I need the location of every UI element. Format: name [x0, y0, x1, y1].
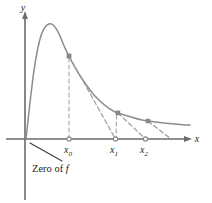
tangent-lines-group — [69, 56, 169, 139]
newton-method-figure: y x x0 x1 x2 Zero of f — [0, 0, 212, 203]
axis-marker-x0 — [67, 137, 71, 141]
tangent-line-x0 — [69, 56, 116, 139]
point-label-x1: x1 — [109, 144, 118, 158]
zero-of-f-leader-line — [30, 143, 62, 161]
point-label-x2-sub: 2 — [144, 150, 148, 158]
figure-canvas: y x x0 x1 x2 Zero of f — [0, 0, 212, 203]
curve-point-marker-x1 — [116, 111, 121, 116]
axis-marker-x2 — [143, 137, 147, 141]
annotation-leader-group — [30, 143, 62, 161]
curve-point-markers-group — [67, 54, 151, 124]
point-label-x1-sub: 1 — [114, 150, 118, 158]
point-label-x0: x0 — [63, 144, 72, 158]
zero-of-f-function-symbol: f — [66, 163, 71, 174]
point-label-x2: x2 — [139, 144, 148, 158]
x-axis-arrowhead — [184, 136, 192, 142]
curve-point-marker-x2 — [146, 119, 150, 123]
x-axis-label: x — [194, 133, 200, 144]
dashed-vertical-x1 — [116, 115, 117, 138]
function-curve-group — [26, 24, 190, 139]
curve-point-marker-x0 — [67, 54, 72, 59]
function-curve — [26, 24, 190, 139]
axis-marker-x1 — [113, 137, 117, 141]
zero-of-f-annotation: Zero of f — [32, 163, 71, 174]
y-axis-label: y — [20, 2, 26, 13]
labels-group: y x x0 x1 x2 Zero of f — [20, 2, 200, 174]
zero-of-f-prefix: Zero of — [32, 163, 66, 174]
point-label-x0-sub: 0 — [68, 150, 72, 158]
